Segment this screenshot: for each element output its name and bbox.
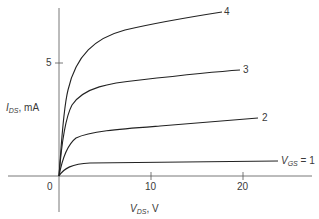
x-axis-title-unit: , V	[146, 203, 158, 214]
y-axis-title: IDS, mA	[6, 103, 39, 114]
curve-label-vgs-subscript: GS	[288, 160, 298, 167]
curve-vgs-2	[59, 118, 258, 176]
y-axis-title-subscript: DS	[9, 107, 19, 114]
curve-vgs-1	[59, 161, 278, 176]
curve-vgs-3	[59, 70, 240, 176]
y-tick-label-5: 5	[46, 58, 52, 68]
x-tick-label-0: 0	[47, 182, 53, 192]
curve-label-3: 3	[243, 65, 249, 75]
curve-label-vgs-value: = 1	[298, 155, 315, 166]
x-tick-label-20: 20	[237, 182, 248, 192]
y-axis-title-unit: , mA	[19, 102, 40, 113]
x-axis-title-subscript: DS	[137, 208, 147, 215]
x-axis-title-symbol: V	[130, 203, 137, 214]
curve-label-vgs-1: VGS = 1	[281, 156, 315, 167]
curve-label-4: 4	[224, 7, 230, 17]
x-tick-label-10: 10	[145, 182, 156, 192]
x-axis-title: VDS, V	[130, 204, 159, 215]
curve-label-vgs-symbol: V	[281, 155, 288, 166]
curve-label-2: 2	[262, 113, 268, 123]
